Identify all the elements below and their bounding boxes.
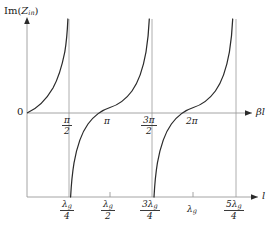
tick-lambda-over-2-num: λg <box>101 200 115 210</box>
asymptote-lines <box>69 19 236 197</box>
tick-label-pi: π <box>104 117 110 126</box>
tick-3lambda-over-4-den: 4 <box>140 210 160 221</box>
length-axis-ticks <box>110 192 193 197</box>
tick-3lambda-over-4-num: 3λg <box>140 200 160 210</box>
z-axis-arrow <box>24 17 30 24</box>
tick-pi-over-2-den: 2 <box>62 125 72 136</box>
beta-l-axis-title: βl <box>256 107 265 117</box>
tick-3pi-over-2-num: 3π <box>141 116 157 125</box>
tick-5lambda-over-4-den: 4 <box>224 210 244 221</box>
tick-lambda-over-4-den: 4 <box>60 210 74 221</box>
origin-label: 0 <box>17 107 23 117</box>
length-axis-title: l <box>262 191 265 201</box>
figure-container: Im(Zin) 0 βl l π2 π 3π2 2π λg4 λg2 3λg4 … <box>0 0 279 237</box>
tick-label-lambda: λg <box>187 205 197 215</box>
tick-label-3lambda-over-4: 3λg4 <box>140 200 160 221</box>
curve-branch-1 <box>28 19 68 113</box>
tick-lambda-over-2-den: 2 <box>101 210 115 221</box>
curve-branch-2 <box>71 19 150 197</box>
tick-label-2pi: 2π <box>186 117 198 126</box>
tick-label-5lambda-over-4: 5λg4 <box>224 200 244 221</box>
tick-label-lambda-over-2: λg2 <box>101 200 115 221</box>
curve-branch-3 <box>154 19 233 197</box>
y-axis-title-prefix: Im( <box>4 5 21 16</box>
tick-5lambda-over-4-num: 5λg <box>224 200 244 210</box>
tangent-curves <box>28 19 233 197</box>
y-axis-title: Im(Zin) <box>4 6 38 17</box>
y-axis-title-suffix: ) <box>35 5 39 16</box>
tick-label-lambda-over-4: λg4 <box>60 200 74 221</box>
tick-pi-over-2-num: π <box>62 116 72 125</box>
tick-label-3pi-over-2: 3π2 <box>141 116 157 137</box>
tick-lambda-over-4-num: λg <box>60 200 74 210</box>
tick-label-pi-over-2: π2 <box>62 116 72 137</box>
beta-l-axis-arrow <box>245 110 252 116</box>
length-axis-arrow <box>251 194 258 200</box>
tick-3pi-over-2-den: 2 <box>141 125 157 136</box>
